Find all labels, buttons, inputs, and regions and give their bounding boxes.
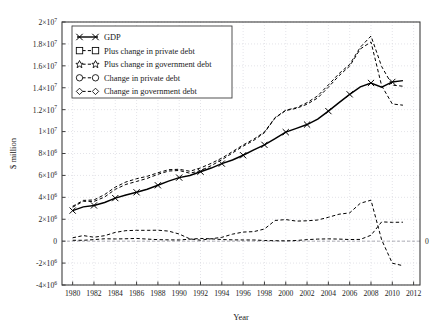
x-tick-label: 1992 <box>193 289 208 298</box>
y-tick-label: 6×106 <box>39 170 58 180</box>
x-tick-label: 2010 <box>385 289 400 298</box>
x-axis-title: Year <box>233 312 249 322</box>
x-tick-label: 2008 <box>363 289 378 298</box>
y-tick-label: 0 <box>53 237 57 246</box>
legend-label: Change in government debt <box>104 87 197 96</box>
y-tick-label: 2×107 <box>39 17 58 27</box>
marker-circle <box>92 75 98 81</box>
x-tick-label: 1994 <box>214 289 229 298</box>
x-tick-label: 1980 <box>65 289 80 298</box>
y-axis: -4×106-2×10602×1064×1066×1068×1061×1071.… <box>33 17 66 290</box>
chart-figure: -4×106-2×10602×1064×1066×1068×1061×1071.… <box>0 0 433 328</box>
y-tick-label: 1.6×107 <box>33 61 57 71</box>
y-tick-label: 2×106 <box>39 214 58 224</box>
legend-label: Plus change in government debt <box>104 60 212 69</box>
marker-square <box>92 47 98 53</box>
y-tick-label: 8×106 <box>39 148 58 158</box>
x-tick-label: 2004 <box>321 289 336 298</box>
x-tick-label: 1986 <box>129 289 144 298</box>
right-zero-label: 0 <box>425 237 429 246</box>
x-tick-label: 1982 <box>86 289 101 298</box>
x-tick-label: 2000 <box>278 289 293 298</box>
legend-label: GDP <box>104 33 121 42</box>
x-tick-label: 1998 <box>257 289 272 298</box>
x-tick-label: 1988 <box>150 289 165 298</box>
y-tick-label: 1×107 <box>39 126 58 136</box>
y-tick-label: 1.2×107 <box>33 104 57 114</box>
y-tick-label: 1.4×107 <box>33 82 57 92</box>
line-chart-svg: -4×106-2×10602×1064×1066×1068×1061×1071.… <box>0 0 433 328</box>
x-tick-label: 2002 <box>299 289 314 298</box>
x-tick-label: 1996 <box>236 289 251 298</box>
y-tick-label: -2×106 <box>36 258 57 268</box>
legend-label: Plus change in private debt <box>104 47 195 56</box>
marker-circle <box>76 75 82 81</box>
y-axis-title: $ million <box>8 137 18 169</box>
series-gdp <box>70 79 403 214</box>
legend-label: Change in private debt <box>104 74 181 83</box>
x-tick-label: 1984 <box>108 289 123 298</box>
series-change-in-government-debt <box>73 222 403 241</box>
y-tick-label: 4×106 <box>39 192 58 202</box>
x-tick-label: 2006 <box>342 289 357 298</box>
y-tick-label: 1.8×107 <box>33 39 57 49</box>
x-tick-label: 1990 <box>172 289 187 298</box>
x-tick-label: 2012 <box>406 289 421 298</box>
series-change-in-private-debt <box>73 200 403 266</box>
marker-square <box>76 47 82 53</box>
y-tick-label: -4×106 <box>36 280 57 290</box>
